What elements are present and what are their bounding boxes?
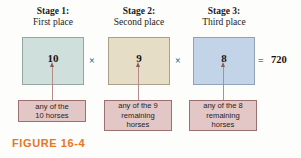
- stage-2-arrow-icon: [138, 66, 139, 100]
- arrow-head-icon: [221, 62, 225, 67]
- stage-3-title: Stage 3:: [181, 6, 267, 17]
- stage-column-1: Stage 1: First place: [10, 0, 96, 28]
- stage-1-description-box: any of the 10 horses: [18, 100, 86, 122]
- multiply-symbol-1: ×: [89, 55, 95, 66]
- stage-3-description-box: any of the 8 remaining horses: [189, 100, 257, 131]
- stage-column-3: Stage 3: Third place: [181, 0, 267, 28]
- description-line: remaining: [121, 111, 154, 121]
- stage-2-subtitle: Second place: [96, 17, 182, 28]
- stage-1-title: Stage 1:: [10, 6, 96, 17]
- stage-1-arrow-icon: [52, 66, 53, 100]
- equals-symbol: =: [258, 55, 264, 66]
- stage-3-subtitle: Third place: [181, 17, 267, 28]
- multiply-symbol-2: ×: [175, 55, 181, 66]
- result-value: 720: [271, 54, 287, 65]
- stage-3-count-box: 8: [193, 37, 255, 85]
- description-line: any of the 9: [118, 101, 158, 111]
- figure-caption: FIGURE 16-4: [12, 137, 85, 149]
- description-line: any of the: [35, 102, 68, 112]
- figure-container: Stage 1: First place Stage 2: Second pla…: [0, 0, 301, 158]
- description-line: any of the 8: [203, 101, 243, 111]
- description-line: remaining: [206, 111, 239, 121]
- stage-2-description-box: any of the 9 remaining horses: [104, 100, 172, 131]
- description-line: horses: [212, 120, 235, 130]
- description-line: 10 horses: [35, 111, 68, 121]
- stage-2-count-box: 9: [108, 37, 170, 85]
- arrow-head-icon: [136, 62, 140, 67]
- stage-column-2: Stage 2: Second place: [96, 0, 182, 28]
- description-line: horses: [127, 120, 150, 130]
- stage-3-arrow-icon: [223, 66, 224, 100]
- stage-2-title: Stage 2:: [96, 6, 182, 17]
- stage-1-count-box: 10: [22, 37, 84, 85]
- stage-1-subtitle: First place: [10, 17, 96, 28]
- arrow-head-icon: [50, 62, 54, 67]
